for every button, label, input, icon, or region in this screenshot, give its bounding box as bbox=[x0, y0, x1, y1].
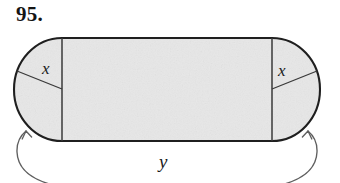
left-arrow-head bbox=[22, 131, 31, 139]
stadium-shape bbox=[14, 38, 320, 141]
width-label: y bbox=[157, 151, 168, 172]
right-radius-label: x bbox=[277, 61, 286, 80]
stadium-diagram: x x y bbox=[0, 0, 340, 183]
left-radius-label: x bbox=[41, 59, 50, 78]
right-arrow-head bbox=[302, 131, 311, 139]
stadium-fill-texture bbox=[14, 38, 320, 141]
figure-container: 95. x x bbox=[0, 0, 340, 183]
